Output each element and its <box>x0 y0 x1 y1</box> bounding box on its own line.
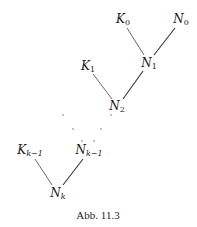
node-k-k-1: Kk−1 <box>17 144 43 158</box>
edge-nk1-nk <box>63 159 83 185</box>
edge-kk1-nk <box>35 159 52 185</box>
tree-diagram: K0 N0 N1 K1 N2 Kk−1 Nk−1 Nk Abb. 11.3 <box>0 0 197 227</box>
edge-k1-n2 <box>93 74 112 99</box>
node-n0: N0 <box>173 13 189 27</box>
node-n2: N2 <box>109 100 125 114</box>
node-n-k-1: Nk−1 <box>75 144 102 158</box>
node-n-k: Nk <box>50 187 65 201</box>
edges <box>0 0 197 227</box>
figure-caption: Abb. 11.3 <box>76 209 119 221</box>
ellipsis-dots <box>62 114 111 141</box>
node-k1: K1 <box>81 60 95 74</box>
edge-n1-n2 <box>123 71 143 99</box>
node-k0: K0 <box>116 13 130 27</box>
edge-n0-n1 <box>154 28 175 55</box>
edge-k0-n1 <box>127 28 144 55</box>
node-n1: N1 <box>141 57 157 71</box>
